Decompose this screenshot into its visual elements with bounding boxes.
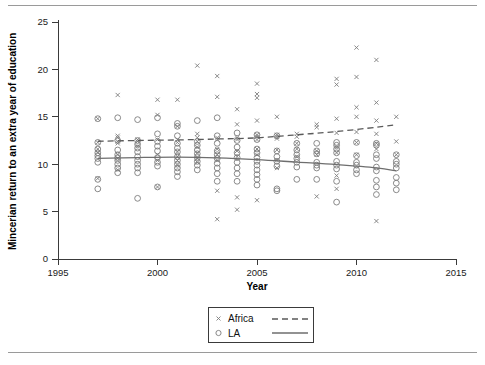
legend-label-la: LA <box>228 328 241 339</box>
data-point-marker <box>135 117 141 123</box>
data-point-marker <box>234 165 240 171</box>
trend-line-la <box>98 157 397 171</box>
top-horizontal-rule <box>8 5 477 6</box>
legend-box <box>209 308 314 343</box>
x-tick-label: 1995 <box>47 267 68 278</box>
data-point-marker <box>95 186 101 192</box>
data-point-marker <box>155 163 161 169</box>
legend-label-africa: Africa <box>228 313 254 324</box>
data-point-marker <box>95 159 101 165</box>
data-point-marker <box>135 195 141 201</box>
data-point-marker <box>95 176 101 182</box>
y-axis-title: Mincerian return to an extra year of edu… <box>7 33 18 250</box>
data-point-marker <box>374 156 380 162</box>
y-tick-label: 20 <box>37 64 48 75</box>
data-point-marker <box>374 184 380 190</box>
series-markers-la <box>95 115 399 205</box>
data-point-marker <box>115 115 121 121</box>
data-point-marker <box>334 178 340 184</box>
y-axis-ticks: 0510152025 <box>37 16 58 264</box>
data-point-marker <box>234 178 240 184</box>
data-point-marker <box>214 178 220 184</box>
data-point-marker <box>274 148 280 154</box>
data-point-marker <box>354 153 360 159</box>
x-tick-label: 2000 <box>147 267 168 278</box>
data-point-marker <box>374 168 380 174</box>
data-point-marker <box>155 131 161 137</box>
y-tick-label: 5 <box>43 206 48 217</box>
data-point-marker <box>254 182 260 188</box>
data-point-marker <box>314 140 320 146</box>
data-point-marker <box>393 180 399 186</box>
data-point-marker <box>393 187 399 193</box>
y-tick-label: 0 <box>43 253 48 264</box>
x-tick-label: 2015 <box>445 267 466 278</box>
data-point-marker <box>155 115 161 121</box>
data-point-marker <box>214 115 220 121</box>
data-point-marker <box>294 176 300 182</box>
legend: Africa LA <box>209 308 314 343</box>
data-point-marker <box>194 118 200 124</box>
y-tick-label: 15 <box>37 111 48 122</box>
data-point-marker <box>374 177 380 183</box>
series-markers-africa <box>96 45 399 223</box>
figure-container: Mincerian return to an extra year of edu… <box>0 0 485 365</box>
scatter-plot: Mincerian return to an extra year of edu… <box>0 0 485 365</box>
x-axis-title: Year <box>246 281 267 292</box>
bottom-horizontal-rule <box>8 352 477 353</box>
data-point-marker <box>393 175 399 181</box>
y-tick-label: 25 <box>37 16 48 27</box>
trend-line-africa <box>98 125 397 142</box>
data-point-marker <box>354 171 360 177</box>
data-point-marker <box>214 171 220 177</box>
x-tick-label: 2010 <box>346 267 367 278</box>
data-point-marker <box>175 133 181 139</box>
data-point-marker <box>314 176 320 182</box>
data-point-marker <box>234 130 240 136</box>
data-point-marker <box>374 192 380 198</box>
data-point-marker <box>214 140 220 146</box>
y-tick-label: 10 <box>37 159 48 170</box>
data-point-marker <box>334 166 340 172</box>
data-point-marker <box>234 171 240 177</box>
x-axis-ticks: 19952000200520102015 <box>47 259 466 278</box>
x-tick-label: 2005 <box>246 267 267 278</box>
data-point-marker <box>334 199 340 205</box>
data-point-marker <box>234 144 240 150</box>
